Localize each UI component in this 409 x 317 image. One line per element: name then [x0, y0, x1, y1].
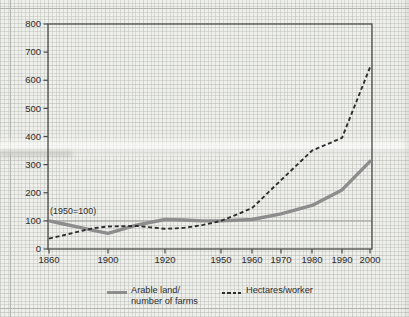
y-axis-label: 800	[25, 18, 41, 29]
y-axis-label: 300	[25, 159, 41, 170]
x-axis-label: 1950	[210, 254, 231, 265]
x-axis-label: 1990	[331, 254, 352, 265]
x-axis-label: 1970	[270, 254, 291, 265]
series-line-hectares-per-worker	[49, 65, 371, 239]
x-axis-label: 1860	[38, 254, 59, 265]
x-axis-label: 1960	[241, 254, 262, 265]
x-axis-label: 1980	[301, 254, 322, 265]
chart-svg: 0100200300400500600700800186019001920195…	[0, 0, 409, 317]
solid-line-swatch	[107, 291, 127, 294]
legend-item-hectares: Hectares/worker	[222, 285, 313, 296]
plot-frame	[48, 24, 372, 249]
series-line-arable-land-per-farm	[49, 160, 371, 233]
x-axis-label: 2000	[359, 254, 380, 265]
index-base-annotation: (1950=100)	[50, 206, 96, 216]
legend-label-arable-line1: Arable land/	[131, 285, 198, 296]
legend-label-arable-line2: number of farms	[131, 296, 198, 307]
dashed-line-swatch	[222, 292, 242, 294]
legend-text-hectares: Hectares/worker	[246, 285, 313, 296]
x-axis-label: 1920	[154, 254, 175, 265]
legend-text-arable: Arable land/ number of farms	[131, 285, 198, 306]
y-axis-label: 200	[25, 187, 41, 198]
y-axis-label: 100	[25, 215, 41, 226]
graph-paper-background: 0100200300400500600700800186019001920195…	[0, 0, 409, 317]
legend-item-arable: Arable land/ number of farms	[107, 285, 198, 306]
y-axis-label: 400	[25, 131, 41, 142]
x-axis-label: 1900	[97, 254, 118, 265]
legend-label-hectares: Hectares/worker	[246, 285, 313, 296]
y-axis-label: 500	[25, 103, 41, 114]
y-axis-label: 700	[25, 46, 41, 57]
y-axis-label: 600	[25, 74, 41, 85]
